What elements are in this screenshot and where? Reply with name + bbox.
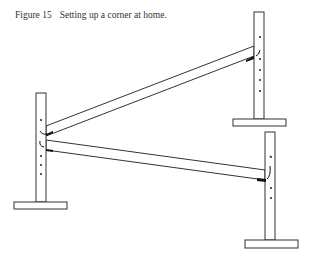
corner-setup-illustration bbox=[0, 0, 314, 265]
lower-rail bbox=[46, 140, 265, 180]
upper-rail bbox=[46, 46, 254, 136]
top-right-standard bbox=[233, 12, 286, 126]
bottom-right-standard bbox=[245, 132, 298, 248]
